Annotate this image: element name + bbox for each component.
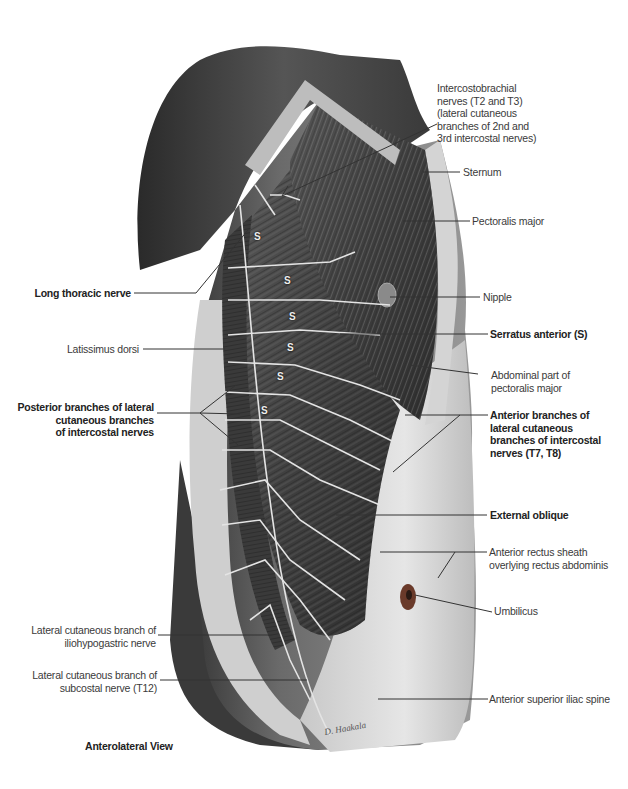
label-line: nerves (T2 and T3)	[437, 95, 536, 108]
label-line: branches of 2nd and	[437, 120, 536, 133]
serratus-marker: S	[277, 371, 284, 382]
label-line: nerves (T7, T8)	[490, 447, 601, 460]
label-sternum: Sternum	[463, 166, 501, 179]
view-title: Anterolateral View	[85, 740, 173, 753]
serratus-marker: S	[287, 342, 294, 353]
label-line: Pectoralis major	[472, 215, 544, 228]
label-line: cutaneous branches	[17, 414, 154, 427]
label-line: branches of intercostal	[490, 434, 601, 447]
label-line: Lateral cutaneous branch of	[31, 624, 156, 637]
label-line: Sternum	[463, 166, 501, 179]
label-line: of intercostal nerves	[17, 426, 154, 439]
label-line: Anterior rectus sheath	[489, 546, 608, 559]
label-anterior-rectus-sheath: Anterior rectus sheath overlying rectus …	[489, 546, 608, 571]
label-line: (lateral cutaneous	[437, 107, 536, 120]
label-subcostal-branch: Lateral cutaneous branch of subcostal ne…	[32, 669, 157, 694]
label-posterior-branches: Posterior branches of lateral cutaneous …	[17, 401, 154, 439]
label-line: Lateral cutaneous branch of	[32, 669, 157, 682]
label-long-thoracic-nerve: Long thoracic nerve	[34, 287, 131, 300]
serratus-marker: S	[261, 405, 268, 416]
label-external-oblique: External oblique	[490, 509, 568, 522]
label-line: Nipple	[483, 291, 512, 304]
label-line: subcostal nerve (T12)	[32, 682, 157, 695]
label-intercostobrachial-nerves: Intercostobrachial nerves (T2 and T3) (l…	[437, 82, 536, 145]
label-line: overlying rectus abdominis	[489, 559, 608, 572]
label-line: 3rd intercostal nerves)	[437, 132, 536, 145]
label-line: Intercostobrachial	[437, 82, 536, 95]
label-anterior-branches: Anterior branches of lateral cutaneous b…	[490, 409, 601, 459]
label-line: Anterior superior iliac spine	[489, 693, 610, 706]
serratus-marker: S	[254, 231, 261, 242]
label-nipple: Nipple	[483, 291, 512, 304]
label-line: Latissimus dorsi	[67, 343, 139, 356]
label-abdominal-part-pectoralis: Abdominal part of pectoralis major	[491, 369, 570, 394]
label-anterior-superior-iliac-spine: Anterior superior iliac spine	[489, 693, 610, 706]
label-serratus-anterior: Serratus anterior (S)	[490, 328, 587, 341]
serratus-marker: S	[289, 311, 296, 322]
serratus-marker: S	[284, 275, 291, 286]
label-line: Long thoracic nerve	[34, 287, 131, 300]
umbilicus-center	[406, 590, 412, 600]
label-line: Umbilicus	[494, 605, 538, 618]
label-line: iliohypogastric nerve	[31, 637, 156, 650]
label-line: pectoralis major	[491, 382, 570, 395]
label-iliohypogastric-branch: Lateral cutaneous branch of iliohypogast…	[31, 624, 156, 649]
anatomy-figure: D. Haakala	[0, 0, 628, 789]
label-umbilicus: Umbilicus	[494, 605, 538, 618]
label-line: Serratus anterior (S)	[490, 328, 587, 341]
label-line: Posterior branches of lateral	[17, 401, 154, 414]
label-line: lateral cutaneous	[490, 422, 601, 435]
nipple-shape	[378, 283, 396, 307]
label-latissimus-dorsi: Latissimus dorsi	[67, 343, 139, 356]
label-line: Abdominal part of	[491, 369, 570, 382]
label-pectoralis-major: Pectoralis major	[472, 215, 544, 228]
label-line: External oblique	[490, 509, 568, 522]
label-line: Anterior branches of	[490, 409, 601, 422]
